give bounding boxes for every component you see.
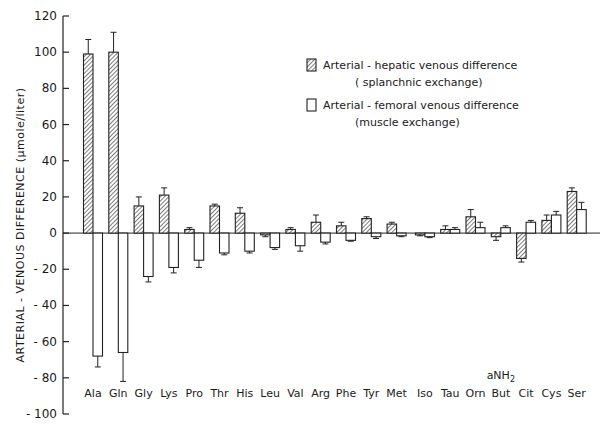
legend-label: Arterial - femoral venous difference <box>323 99 519 112</box>
hepatic-bar <box>311 222 321 233</box>
category-labels: AlaGlnGlyLysProThrHisLeuValArgPheTyrMetI… <box>84 369 586 400</box>
legend-sublabel: (muscle exchange) <box>355 116 460 129</box>
hepatic-bar <box>210 206 220 233</box>
legend-sublabel: ( splanchnic exchange) <box>355 76 483 89</box>
femoral-bar <box>346 233 356 240</box>
hepatic-bar <box>337 226 347 233</box>
femoral-bar <box>220 233 230 253</box>
bar-group-tau <box>441 226 460 233</box>
femoral-bar <box>118 233 128 352</box>
category-label: Phe <box>336 387 357 400</box>
hepatic-bar <box>84 54 94 233</box>
legend-swatch <box>307 59 316 71</box>
bar-group-gly <box>134 197 153 282</box>
category-label: Gln <box>109 387 128 400</box>
femoral-bar <box>194 233 204 260</box>
category-label: Gly <box>135 387 154 400</box>
y-tick-label: 20 <box>42 190 57 204</box>
bar-group-iso <box>415 233 434 238</box>
hepatic-bar <box>491 233 501 237</box>
hepatic-bar <box>185 229 195 233</box>
femoral-bar <box>321 233 331 242</box>
bar-group-cit <box>517 220 536 262</box>
category-label: Cit <box>519 387 535 400</box>
hepatic-bar <box>235 213 245 233</box>
femoral-bar <box>501 228 511 233</box>
category-label: Pro <box>185 387 203 400</box>
y-tick-label: 100 <box>34 45 57 59</box>
y-tick-label: - 80 <box>34 371 57 385</box>
category-label: Cys <box>541 387 561 400</box>
y-tick-label: - 40 <box>34 298 57 312</box>
hepatic-bar <box>109 52 119 233</box>
bar-group-val <box>286 228 305 252</box>
category-label: Thr <box>209 387 229 400</box>
y-tick-label: 80 <box>42 81 57 95</box>
bar-groups <box>84 32 587 381</box>
bar-group-orn <box>466 210 485 234</box>
bar-group-thr <box>210 204 229 255</box>
femoral-bar <box>295 233 305 246</box>
category-label: Leu <box>260 387 280 400</box>
hepatic-bar <box>441 229 451 233</box>
category-label: Val <box>287 387 303 400</box>
femoral-bar <box>526 222 536 233</box>
femoral-bar <box>144 233 154 276</box>
y-tick-label: 40 <box>42 154 57 168</box>
category-label: Iso <box>417 387 433 400</box>
hepatic-bar <box>415 233 425 235</box>
category-label: Tyr <box>362 387 380 400</box>
bar-group-ala <box>84 40 103 367</box>
bar-group-arg <box>311 215 330 244</box>
femoral-bar <box>425 233 435 237</box>
bar-group-ser <box>567 188 586 233</box>
femoral-bar <box>169 233 179 267</box>
hepatic-bar <box>387 224 397 233</box>
category-label: Tau <box>440 387 460 400</box>
femoral-bar <box>577 210 587 234</box>
category-label: Arg <box>311 387 330 400</box>
y-tick-label: 120 <box>34 9 57 23</box>
legend-swatch <box>307 99 316 111</box>
category-label: His <box>236 387 253 400</box>
category-label: Ala <box>84 387 101 400</box>
hepatic-bar <box>542 220 552 233</box>
hepatic-bar <box>261 233 271 235</box>
category-label: Lys <box>160 387 178 400</box>
y-tick-label: 60 <box>42 118 57 132</box>
y-tick-label: 0 <box>49 226 57 240</box>
hepatic-bar <box>286 229 296 233</box>
y-tick-label: - 20 <box>34 262 57 276</box>
category-superlabel: aNH2 <box>487 369 515 384</box>
category-label: Orn <box>466 387 486 400</box>
bar-group-lys <box>159 188 178 273</box>
hepatic-bar <box>134 206 144 233</box>
category-label: Met <box>386 387 407 400</box>
svg-text:ARTERIAL - VENOUS DIFFERENCE: ARTERIAL - VENOUS DIFFERENCE (µmole/lite… <box>14 88 27 363</box>
category-label: But <box>491 387 511 400</box>
y-tick-label: - 60 <box>34 335 57 349</box>
femoral-bar <box>270 233 280 247</box>
bar-group-tyr <box>362 217 381 239</box>
bar-group-anh2-but <box>491 226 510 240</box>
hepatic-bar <box>466 217 476 233</box>
femoral-bar <box>476 228 486 233</box>
hepatic-bar <box>517 233 527 258</box>
bar-group-met <box>387 222 406 236</box>
bar-group-phe <box>337 222 356 241</box>
hepatic-bar <box>159 195 169 233</box>
legend: Arterial - hepatic venous difference( sp… <box>307 59 519 129</box>
legend-label: Arterial - hepatic venous difference <box>323 59 517 72</box>
category-label: Ser <box>568 387 587 400</box>
legend-item-femoral: Arterial - femoral venous difference(mus… <box>307 99 519 129</box>
femoral-bar <box>245 233 255 251</box>
legend-item-hepatic: Arterial - hepatic venous difference( sp… <box>307 59 517 89</box>
femoral-bar <box>93 233 103 356</box>
bar-group-pro <box>185 228 204 268</box>
bar-group-cys <box>542 211 561 233</box>
hepatic-bar <box>362 219 372 233</box>
amino-acid-av-difference-chart: 120100806040200- 20- 40- 60- 80- 100 Ala… <box>0 0 603 427</box>
femoral-bar <box>551 215 561 233</box>
bar-group-leu <box>261 233 280 249</box>
hepatic-bar <box>567 191 577 233</box>
